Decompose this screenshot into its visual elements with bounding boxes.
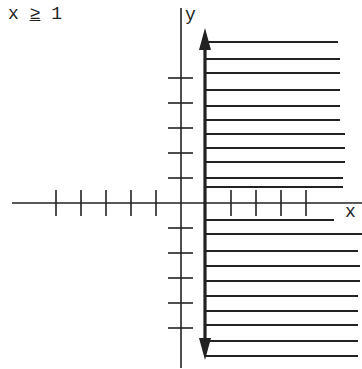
- x-axis-label: x: [345, 202, 356, 222]
- inequality-title: x ≥ 1: [8, 4, 62, 24]
- title-lhs: x: [8, 4, 19, 24]
- title-rhs: 1: [51, 4, 62, 24]
- graph-canvas: [0, 0, 362, 369]
- shaded-region: [205, 42, 362, 356]
- y-axis-label: y: [185, 5, 196, 25]
- title-operator: ≥: [30, 4, 41, 24]
- arrow-up-icon: [199, 28, 211, 50]
